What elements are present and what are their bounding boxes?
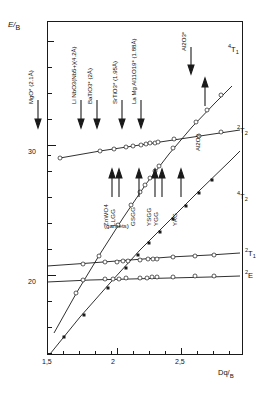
host-label-lamgal11o19: La Mg Al11O19* (1.88Å) [131, 38, 137, 104]
host-label-mgo: MgO* (2.1Å) [28, 70, 34, 104]
host-label-linbo3: Li NbO3(Nb5+)(4.2Å) [71, 46, 77, 104]
curve-label-2T2: 2T2 [237, 124, 248, 136]
y-axis-title-text: E [8, 20, 13, 29]
host-label-batio3: BaTiO3* (2Å) [87, 68, 93, 104]
x-axis-title: Dq/B [218, 368, 234, 379]
tanabe-sugano-figure: E/B Dq/B 1,5 2 2,5 30 20 [0, 0, 268, 408]
x-tick-label-3: 2,5 [175, 358, 185, 365]
x-tick-label-1: 1,5 [42, 358, 52, 365]
host-label-al2o3: Al2O3 [195, 134, 201, 151]
x-axis-title-text: Dq [218, 368, 228, 377]
garnet-label-ysgg: YSGG [146, 207, 152, 226]
host-label-al2o3-star: Al2O3* [181, 32, 187, 51]
x-axis-title-sub: B [230, 373, 234, 379]
garnet-label-ygg: YGG [153, 212, 159, 226]
host-label-srtio3: SrTiO3* (1.95Å) [112, 61, 118, 104]
y-axis-title: E/B [8, 20, 20, 31]
y-tick-label-20: 20 [28, 278, 36, 285]
y-tick-label-30: 30 [28, 148, 36, 155]
garnet-label-yag: YAG [172, 213, 178, 226]
curve-label-2T1: 2T1 [245, 247, 256, 259]
curve-label-4T2: 4T2 [237, 190, 248, 202]
garnet-label-gsgg: GSGG [130, 207, 136, 226]
garnets-caption: (garnets) [104, 222, 129, 229]
y-axis-title-sub: B [16, 24, 21, 31]
host-arrow-MgO [35, 100, 41, 128]
curve-label-4T1: 4T1 [228, 43, 239, 55]
curve-label-2E: 2E [245, 269, 253, 280]
x-tick-label-2: 2 [111, 358, 115, 365]
